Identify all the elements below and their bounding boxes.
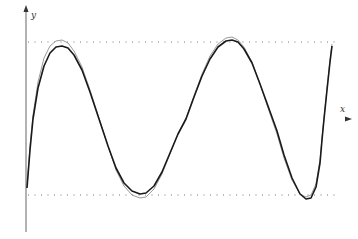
chart-canvas: x y: [0, 0, 358, 239]
x-axis-label: x: [340, 104, 345, 114]
y-axis-arrow-icon: [24, 5, 29, 12]
curve-approx: [27, 37, 332, 198]
y-axis-label: y: [30, 10, 37, 20]
x-axis-arrow-icon: [345, 117, 352, 122]
